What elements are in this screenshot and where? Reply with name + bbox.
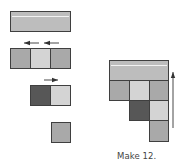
unit-block-stack: [149, 80, 169, 101]
unit-block-row-three: [50, 48, 71, 69]
unit-block-row-two: [30, 85, 51, 106]
unit-block-stack: [149, 100, 169, 121]
unit-block-row-two: [50, 85, 71, 106]
unit-block-stack: [149, 120, 169, 142]
unit-block-row-one: [51, 122, 71, 143]
caption-make-12: Make 12.: [117, 151, 156, 161]
unit-block-stack: [129, 100, 150, 121]
arrow-up-icon: [170, 71, 176, 129]
unit-block-stack: [129, 80, 150, 101]
unit-block-row-three: [10, 48, 31, 69]
ten-bar-right: [109, 60, 169, 81]
arrow-left-icon: [23, 40, 40, 46]
unit-block-stack: [109, 80, 130, 101]
arrow-right-icon: [43, 77, 59, 83]
unit-block-row-three: [30, 48, 51, 69]
bar-highlight: [111, 65, 167, 66]
bar-highlight: [12, 16, 69, 17]
arrow-left-icon: [43, 40, 60, 46]
ten-bar-left: [10, 11, 71, 32]
